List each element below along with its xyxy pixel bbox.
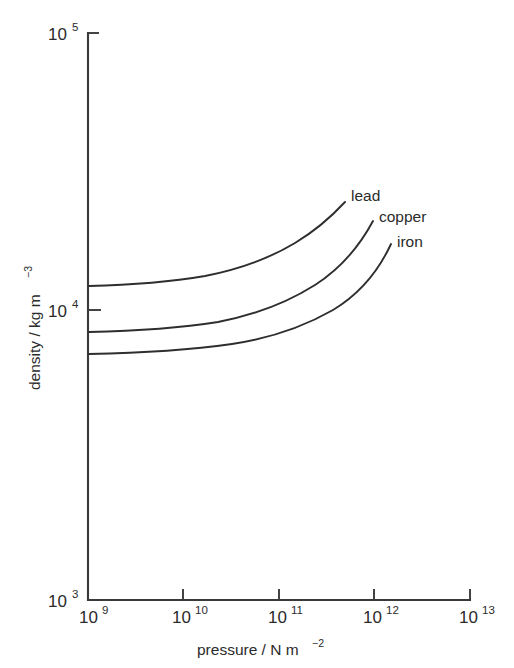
x-tick-label-1e13-mantissa: 10 xyxy=(459,608,478,627)
x-tick-label-1e10: 10 10 xyxy=(172,604,208,627)
x-tick-label-1e11-mantissa: 10 xyxy=(268,608,287,627)
y-tick-label-1e3-mantissa: 10 xyxy=(48,592,67,611)
x-tick-labels: 10 9 10 10 10 11 10 12 10 13 xyxy=(79,604,495,627)
curve-label-iron: iron xyxy=(397,233,423,250)
x-tick-label-1e10-mantissa: 10 xyxy=(172,608,191,627)
y-axis-title: density / kg m −3 xyxy=(22,266,43,390)
x-tick-label-1e10-exponent: 10 xyxy=(195,604,208,616)
curve-labels: lead copper iron xyxy=(351,187,426,250)
x-tick-label-1e9-mantissa: 10 xyxy=(79,608,98,627)
x-tick-label-1e13-exponent: 13 xyxy=(482,604,495,616)
y-tick-label-1e5-mantissa: 10 xyxy=(48,25,67,44)
curve-label-copper: copper xyxy=(379,208,426,225)
x-tick-label-1e12-exponent: 12 xyxy=(386,604,399,616)
y-axis-title-base: density / kg m xyxy=(26,294,43,390)
x-axis-title-exponent: −2 xyxy=(312,637,324,649)
y-axis-title-exponent: −3 xyxy=(22,266,34,278)
y-tick-label-1e3-exponent: 3 xyxy=(72,588,78,600)
x-tick-label-1e12-mantissa: 10 xyxy=(363,608,382,627)
x-tick-label-1e9-exponent: 9 xyxy=(102,604,108,616)
x-tick-label-1e11-exponent: 11 xyxy=(291,604,303,616)
y-tick-label-1e4-exponent: 4 xyxy=(72,298,79,310)
curve-lead xyxy=(89,202,345,286)
x-tick-label-1e13: 10 13 xyxy=(459,604,495,627)
curve-label-lead: lead xyxy=(351,187,380,204)
y-tick-label-1e3: 10 3 xyxy=(48,588,78,611)
y-tick-labels: 10 5 10 4 10 3 xyxy=(48,21,79,611)
y-tick-label-1e5: 10 5 xyxy=(48,21,78,44)
y-tick-label-1e5-exponent: 5 xyxy=(72,21,78,33)
x-axis-title: pressure / N m −2 xyxy=(197,637,324,658)
figure-container: 10 5 10 4 10 3 10 9 10 10 10 xyxy=(0,0,514,668)
x-tick-label-1e9: 10 9 xyxy=(79,604,108,627)
x-tick-label-1e12: 10 12 xyxy=(363,604,399,627)
chart-canvas: 10 5 10 4 10 3 10 9 10 10 10 xyxy=(0,0,514,668)
axis-frame xyxy=(88,33,470,600)
x-axis-title-base: pressure / N m xyxy=(197,641,299,658)
y-tick-label-1e4-mantissa: 10 xyxy=(48,302,67,321)
y-tick-label-1e4: 10 4 xyxy=(48,298,79,321)
x-axis-ticks xyxy=(88,589,470,600)
x-tick-label-1e11: 10 11 xyxy=(268,604,303,627)
data-curves xyxy=(89,202,391,354)
y-axis-ticks xyxy=(88,33,101,600)
curve-copper xyxy=(89,221,373,332)
